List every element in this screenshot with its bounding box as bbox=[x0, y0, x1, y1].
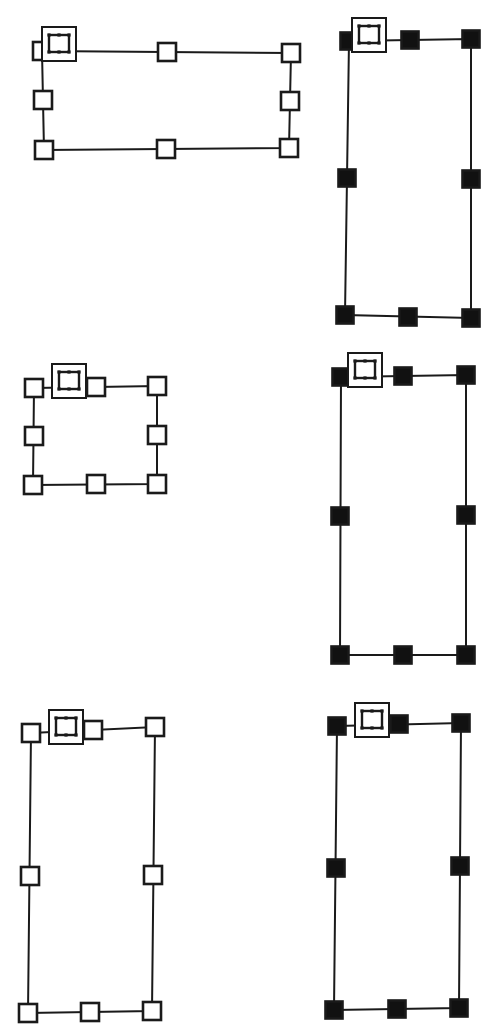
badge-outer-square bbox=[355, 703, 389, 737]
handle-top-right[interactable] bbox=[146, 718, 164, 736]
resize-badge[interactable] bbox=[348, 353, 382, 387]
resize-badge[interactable] bbox=[42, 27, 76, 61]
handle-top-right[interactable] bbox=[453, 715, 470, 732]
handle-middle-right[interactable] bbox=[148, 426, 166, 444]
badge-tick bbox=[67, 387, 70, 390]
badge-tick bbox=[74, 716, 77, 719]
badge-tick bbox=[363, 376, 366, 379]
badge-tick bbox=[67, 50, 70, 53]
resize-badge[interactable] bbox=[49, 710, 83, 744]
handle-bottom-left[interactable] bbox=[35, 141, 53, 159]
badge-tick bbox=[367, 24, 370, 27]
handle-middle-right[interactable] bbox=[463, 171, 480, 188]
badge-outer-square bbox=[42, 27, 76, 61]
handle-top-left[interactable] bbox=[22, 724, 40, 742]
top-right-tall-rectangle[interactable] bbox=[337, 18, 480, 327]
handle-middle-right[interactable] bbox=[144, 866, 162, 884]
handle-middle-left[interactable] bbox=[328, 860, 345, 877]
middle-right-tall-rectangle[interactable] bbox=[332, 353, 475, 664]
handle-top-center[interactable] bbox=[87, 378, 105, 396]
handle-bottom-left[interactable] bbox=[19, 1004, 37, 1022]
resize-badge[interactable] bbox=[352, 18, 386, 52]
handle-top-center[interactable] bbox=[391, 716, 408, 733]
badge-tick bbox=[74, 733, 77, 736]
badge-tick bbox=[67, 370, 70, 373]
bottom-left-tall-rectangle[interactable] bbox=[19, 710, 164, 1022]
badge-tick bbox=[64, 733, 67, 736]
middle-left-small-rectangle[interactable] bbox=[24, 364, 166, 494]
shape-outline[interactable] bbox=[345, 39, 471, 318]
handle-top-left[interactable] bbox=[333, 369, 350, 386]
shape-outline[interactable] bbox=[340, 375, 466, 655]
badge-outer-square bbox=[348, 353, 382, 387]
handle-top-right[interactable] bbox=[458, 367, 475, 384]
badge-tick bbox=[373, 376, 376, 379]
shape-outline[interactable] bbox=[33, 386, 157, 485]
handle-middle-left[interactable] bbox=[25, 427, 43, 445]
bottom-right-tall-rectangle[interactable] bbox=[326, 703, 470, 1019]
selection-diagram-svg bbox=[0, 0, 490, 1034]
badge-tick bbox=[353, 359, 356, 362]
badge-tick bbox=[360, 726, 363, 729]
handle-bottom-center[interactable] bbox=[395, 647, 412, 664]
handle-bottom-left[interactable] bbox=[337, 307, 354, 324]
handle-middle-left[interactable] bbox=[339, 170, 356, 187]
handle-top-right[interactable] bbox=[282, 44, 300, 62]
handle-bottom-left[interactable] bbox=[332, 647, 349, 664]
handle-bottom-center[interactable] bbox=[157, 140, 175, 158]
handle-middle-left[interactable] bbox=[34, 91, 52, 109]
badge-tick bbox=[360, 709, 363, 712]
handle-top-left[interactable] bbox=[329, 718, 346, 735]
badge-tick bbox=[57, 50, 60, 53]
handle-bottom-right[interactable] bbox=[280, 139, 298, 157]
handle-top-left[interactable] bbox=[25, 379, 43, 397]
handle-middle-left[interactable] bbox=[21, 867, 39, 885]
badge-tick bbox=[57, 33, 60, 36]
handle-bottom-left[interactable] bbox=[24, 476, 42, 494]
badge-tick bbox=[377, 24, 380, 27]
handle-bottom-right[interactable] bbox=[451, 1000, 468, 1017]
handle-middle-left[interactable] bbox=[332, 508, 349, 525]
handle-bottom-right[interactable] bbox=[143, 1002, 161, 1020]
handle-bottom-center[interactable] bbox=[389, 1001, 406, 1018]
handle-top-center[interactable] bbox=[402, 32, 419, 49]
badge-tick bbox=[367, 41, 370, 44]
badge-tick bbox=[357, 24, 360, 27]
shape-outline[interactable] bbox=[28, 727, 155, 1013]
handle-bottom-left[interactable] bbox=[326, 1002, 343, 1019]
badge-tick bbox=[67, 33, 70, 36]
handle-bottom-right[interactable] bbox=[148, 475, 166, 493]
badge-tick bbox=[47, 33, 50, 36]
badge-tick bbox=[377, 41, 380, 44]
badge-tick bbox=[373, 359, 376, 362]
handle-bottom-center[interactable] bbox=[81, 1003, 99, 1021]
badge-tick bbox=[77, 370, 80, 373]
badge-tick bbox=[357, 41, 360, 44]
badge-tick bbox=[77, 387, 80, 390]
resize-badge[interactable] bbox=[355, 703, 389, 737]
handle-top-center[interactable] bbox=[158, 43, 176, 61]
handle-bottom-center[interactable] bbox=[87, 475, 105, 493]
handle-bottom-center[interactable] bbox=[400, 309, 417, 326]
shape-outline[interactable] bbox=[42, 51, 291, 150]
handle-top-center[interactable] bbox=[395, 368, 412, 385]
handle-top-right[interactable] bbox=[463, 31, 480, 48]
top-left-wide-rectangle[interactable] bbox=[33, 27, 300, 159]
badge-outer-square bbox=[49, 710, 83, 744]
shape-outline[interactable] bbox=[334, 723, 461, 1010]
badge-outer-square bbox=[52, 364, 86, 398]
badge-tick bbox=[54, 733, 57, 736]
handle-middle-right[interactable] bbox=[452, 858, 469, 875]
handle-bottom-right[interactable] bbox=[463, 310, 480, 327]
badge-tick bbox=[380, 709, 383, 712]
badge-tick bbox=[363, 359, 366, 362]
handle-middle-right[interactable] bbox=[281, 92, 299, 110]
handle-bottom-right[interactable] bbox=[458, 647, 475, 664]
handle-top-right[interactable] bbox=[148, 377, 166, 395]
resize-badge[interactable] bbox=[52, 364, 86, 398]
handle-middle-right[interactable] bbox=[458, 507, 475, 524]
badge-tick bbox=[64, 716, 67, 719]
badge-tick bbox=[54, 716, 57, 719]
handle-top-center[interactable] bbox=[84, 721, 102, 739]
badge-tick bbox=[353, 376, 356, 379]
